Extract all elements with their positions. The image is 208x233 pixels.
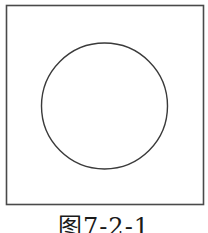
figure-caption: 图7-2-1 [0, 213, 208, 233]
figure: 图7-2-1 [0, 0, 208, 233]
diagram-canvas [0, 0, 208, 233]
square-outline [7, 6, 204, 205]
circle-outline [42, 43, 168, 169]
